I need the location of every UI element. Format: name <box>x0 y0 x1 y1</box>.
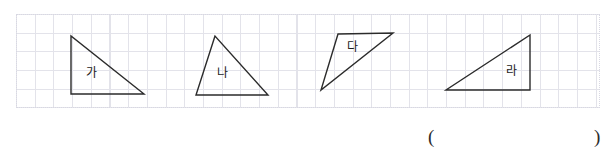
triangle-ra[interactable] <box>446 35 530 90</box>
triangle-na[interactable] <box>196 36 268 95</box>
answer-paren-open: ( <box>428 127 434 146</box>
triangle-label-da: 다 <box>347 41 358 53</box>
answer-paren-close: ) <box>594 127 600 146</box>
triangle-label-ga: 가 <box>86 67 97 79</box>
triangle-ga[interactable] <box>71 36 144 94</box>
triangle-label-na: 나 <box>217 67 228 79</box>
triangle-label-ra: 라 <box>506 65 517 77</box>
worksheet-page: 가 나 다 라 ( ) <box>0 0 614 153</box>
